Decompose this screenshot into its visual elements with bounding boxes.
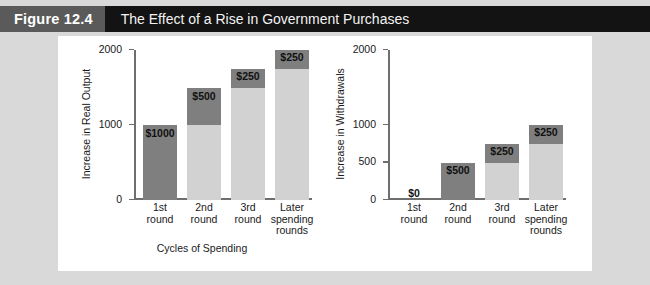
y-tick-label-left-0: 0 [116,193,122,205]
bar-right-2nd: $500 [441,163,475,201]
bar-left-3rd: $250 [231,69,265,200]
x-label-line: rounds [266,225,318,237]
y-tick-label-right-2000: 2000 [353,43,376,55]
y-tick-label-left-1000: 1000 [99,118,122,130]
charts-area: Increase in Real Output 0 1000 2000 [58,36,592,271]
figure-number-tag: Figure 12.4 [0,6,105,32]
y-tick-label-right-1000: 1000 [353,118,376,130]
x-label-later: Later spending rounds [266,202,318,237]
plot-area-right: 0 500 1000 2000 $0 [388,50,566,200]
bar-segment-increment: $500 [187,88,221,126]
y-tick-label-left-2000: 2000 [99,43,122,55]
bar-right-3rd: $250 [485,144,519,200]
y-axis-title-left: Increase in Real Output [78,44,94,204]
bar-value-label: $500 [187,90,221,102]
bar-segment-increment: $250 [529,125,563,144]
chart-real-output: Increase in Real Output 0 1000 2000 [76,44,328,244]
bar-value-label: $500 [441,164,475,176]
bar-segment-cumulative [529,144,563,200]
chart-withdrawals: Increase in Withdrawals 0 500 1000 [330,44,580,244]
bar-segment-cumulative [187,125,221,200]
bar-segment-cumulative [231,88,265,201]
bar-value-label: $1000 [143,127,177,139]
bar-value-label: $250 [231,70,265,82]
bar-left-1st: $1000 [143,125,177,200]
y-axis-title-right-text: Increase in Withdrawals [332,44,348,204]
x-axis-labels-right: 1st round 2nd round 3rd round Later [388,202,566,248]
bar-left-2nd: $500 [187,88,221,201]
x-label-line: rounds [520,225,572,237]
bars-left: $1000 $500 $250 [134,50,312,200]
bars-right: $0 $500 $250 [388,50,566,200]
bar-segment-increment: $250 [231,69,265,88]
bar-value-label: $250 [529,126,563,138]
bar-value-label: $0 [397,187,431,199]
bar-segment-cumulative [485,163,519,201]
figure-content-panel: Increase in Real Output 0 1000 2000 [58,36,592,271]
x-label-later: Later spending rounds [520,202,572,237]
y-axis-title-right: Increase in Withdrawals [332,44,348,204]
y-tick-label-right-0: 0 [370,193,376,205]
bar-value-label: $250 [485,145,519,157]
bar-value-label: $250 [275,51,309,63]
bar-segment-increment: $250 [485,144,519,163]
bar-left-later: $250 [275,50,309,200]
plot-area-left: 0 1000 2000 $1000 [134,50,312,200]
bar-right-later: $250 [529,125,563,200]
x-axis-title: Cycles of Spending [76,242,328,254]
bar-segment-cumulative [275,69,309,200]
bar-segment-increment: $250 [275,50,309,69]
x-label-line: Later [266,202,318,214]
figure-title: The Effect of a Rise in Government Purch… [105,6,409,32]
y-axis-title-left-text: Increase in Real Output [78,44,94,204]
bar-segment-increment: $1000 [143,125,177,200]
figure-container: Figure 12.4 The Effect of a Rise in Gove… [0,0,650,285]
figure-header-bar: Figure 12.4 The Effect of a Rise in Gove… [0,6,650,32]
x-label-line: Later [520,202,572,214]
y-tick-label-right-500: 500 [358,155,376,167]
bar-segment-increment: $500 [441,163,475,201]
